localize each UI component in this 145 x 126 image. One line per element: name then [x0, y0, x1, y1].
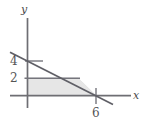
tick-label-y-4: 4 — [10, 55, 18, 67]
y-axis-label: y — [21, 4, 27, 15]
coordinate-plane-svg — [0, 0, 145, 126]
graph-figure: y x 4 2 6 — [0, 0, 145, 126]
tick-label-y-2: 2 — [10, 72, 18, 84]
shaded-feasible-region — [28, 78, 97, 95]
x-axis-label: x — [133, 90, 139, 101]
tick-label-x-6: 6 — [92, 107, 100, 119]
